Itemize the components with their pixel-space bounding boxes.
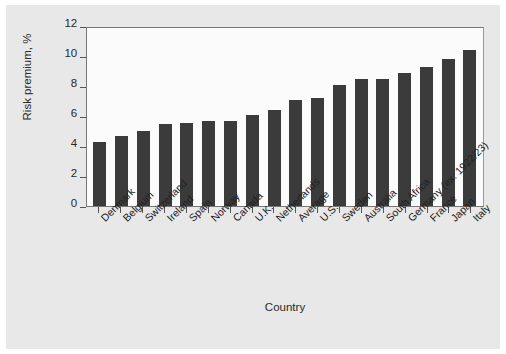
x-axis-title: Country bbox=[86, 301, 484, 313]
bar bbox=[202, 121, 215, 206]
bar bbox=[376, 79, 389, 207]
x-axis-label-slot: Japan bbox=[442, 214, 455, 310]
x-axis-label-slot: Ireland bbox=[158, 214, 171, 310]
y-axis-tick-label: 4 bbox=[71, 138, 77, 150]
y-axis-tick-label: 10 bbox=[65, 48, 77, 60]
x-axis-label-slot: Spain bbox=[180, 214, 193, 310]
y-axis-tick-label: 2 bbox=[71, 168, 77, 180]
y-axis-tick-label: 8 bbox=[71, 78, 77, 90]
x-axis-label-slot: Australia bbox=[355, 214, 368, 310]
bar bbox=[333, 85, 346, 206]
x-axis-label-slot: South Africa bbox=[377, 214, 390, 310]
x-axis-label-slot: France bbox=[421, 214, 434, 310]
y-axis-tick-label: 12 bbox=[65, 18, 77, 30]
x-axis-label-slot: Average bbox=[289, 214, 302, 310]
x-axis-label-slot: Italy bbox=[464, 214, 477, 310]
x-axis-tick-mark bbox=[98, 207, 99, 213]
x-axis-label-slot: Belgium bbox=[114, 214, 127, 310]
x-axis-label-slot: Norway bbox=[202, 214, 215, 310]
chart-figure: Risk premium, % 024681012 DenmarkBelgium… bbox=[6, 5, 500, 349]
bar bbox=[93, 142, 106, 207]
x-axis-label-slot: U.S. bbox=[311, 214, 324, 310]
y-axis: Risk premium, % 024681012 bbox=[6, 5, 86, 229]
x-axis-label-slot: Canada bbox=[224, 214, 237, 310]
x-axis-label-slot: Netherlands bbox=[267, 214, 280, 310]
bar bbox=[268, 110, 281, 206]
x-axis-label-slot: Denmark bbox=[92, 214, 105, 310]
x-axis-label-slot: Germany (ex. 1922/23) bbox=[399, 214, 412, 310]
bar bbox=[463, 50, 476, 206]
x-axis-label-slot: U.K. bbox=[246, 214, 259, 310]
x-axis-label-slot: Switzerland bbox=[136, 214, 149, 310]
y-axis-tick-label: 0 bbox=[71, 198, 77, 210]
bar bbox=[398, 73, 411, 206]
x-axis-label-slot: Sweden bbox=[333, 214, 346, 310]
y-axis-tick-label: 6 bbox=[71, 108, 77, 120]
x-axis-labels: DenmarkBelgiumSwitzerlandIrelandSpainNor… bbox=[86, 214, 484, 310]
y-axis-title: Risk premium, % bbox=[21, 22, 33, 132]
